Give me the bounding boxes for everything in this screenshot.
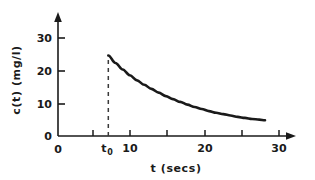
y-tick-label-30: 30 [37, 32, 53, 45]
t0-label-base: t [101, 142, 106, 155]
t0-marker-label: t 0 [101, 142, 113, 157]
decay-chart: 30 20 10 0 0 10 20 30 t 0 t (secs) c(t) … [0, 0, 315, 180]
x-tick-label-30: 30 [271, 142, 287, 155]
x-tick-label-0: 0 [54, 143, 62, 156]
x-axis-arrowhead [286, 132, 296, 140]
figure-container: 30 20 10 0 0 10 20 30 t 0 t (secs) c(t) … [0, 0, 315, 180]
x-axis-ticks [93, 130, 279, 136]
y-tick-label-0: 0 [44, 130, 52, 143]
x-tick-label-10: 10 [122, 142, 138, 155]
y-axis-title: c(t) (mg/l) [10, 45, 23, 114]
y-tick-label-20: 20 [37, 65, 53, 78]
x-tick-label-20: 20 [197, 142, 213, 155]
y-axis-arrowhead [54, 12, 62, 22]
decay-curve [108, 55, 265, 120]
y-axis [54, 12, 62, 136]
x-axis-title: t (secs) [150, 162, 201, 175]
t0-label-subscript: 0 [107, 148, 113, 157]
y-axis-ticks [58, 38, 65, 104]
y-tick-label-10: 10 [37, 98, 53, 111]
